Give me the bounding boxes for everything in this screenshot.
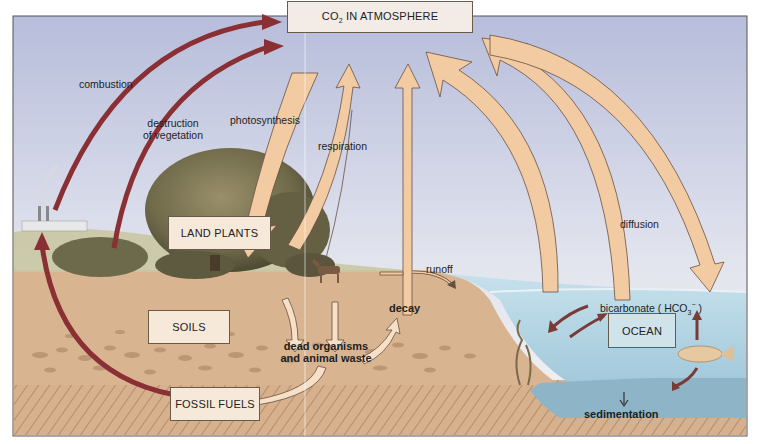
land-plants-label: LAND PLANTS bbox=[181, 227, 258, 239]
photosynthesis-label: photosynthesis bbox=[230, 114, 300, 126]
diffusion-label: diffusion bbox=[620, 218, 659, 230]
land-plants-box: LAND PLANTS bbox=[168, 216, 271, 250]
dead-organisms-label: dead organisms and animal waste bbox=[276, 340, 376, 364]
soils-label: SOILS bbox=[172, 321, 205, 333]
fossil-fuels-box: FOSSIL FUELS bbox=[170, 387, 260, 421]
decay-label: decay bbox=[389, 302, 420, 314]
runoff-label: runoff bbox=[426, 263, 453, 275]
atmosphere-box: CO2 IN ATMOSPHERE bbox=[287, 1, 473, 33]
sedimentation-label: sedimentation bbox=[584, 408, 659, 420]
ocean-label: OCEAN bbox=[622, 325, 662, 337]
soils-box: SOILS bbox=[148, 310, 230, 344]
respiration-label: respiration bbox=[318, 140, 367, 152]
atmosphere-label: CO2 IN ATMOSPHERE bbox=[322, 10, 439, 24]
carbon-cycle-diagram: CO2 IN ATMOSPHERE LAND PLANTS SOILS FOSS… bbox=[0, 0, 759, 444]
destruction-label: destruction of vegetation bbox=[142, 117, 204, 141]
combustion-label: combustion bbox=[79, 78, 133, 90]
bicarbonate-label: bicarbonate ( HCO3− ) bbox=[600, 299, 702, 319]
fossil-fuels-label: FOSSIL FUELS bbox=[175, 398, 255, 410]
